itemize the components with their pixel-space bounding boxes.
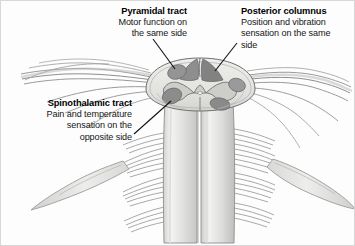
callout-spinothalamic-tract: Spinothalamic tract Pain and temperature… [7,97,132,143]
nerve-rootlet-fan-lower-right [234,129,275,227]
callout-desc-posterior-line2: sensation on the same [241,28,353,39]
spinal-cord-figure: Pyramidal tract Motor function on the sa… [0,0,355,246]
callout-posterior-columnus: Posterior columnus Position and vibratio… [241,5,353,51]
spinal-cord-cross-section [146,58,255,112]
callout-title-pyramidal: Pyramidal tract [61,5,187,17]
callout-title-spinothalamic: Spinothalamic tract [7,97,132,109]
nerve-root-trunk-right [267,159,355,209]
callout-pyramidal-tract: Pyramidal tract Motor function on the sa… [61,5,187,40]
callout-desc-pyramidal-line2: the same side [61,28,187,39]
descending-cord-columns [163,101,234,243]
callout-title-posterior: Posterior columnus [241,5,353,17]
callout-desc-posterior-line3: side [241,40,353,51]
central-canal [198,91,202,94]
callout-desc-posterior-line1: Position and vibration [241,17,353,28]
callout-desc-spinothalamic-line2: sensation on the [7,120,132,131]
callout-desc-spinothalamic-line3: opposite side [7,132,132,143]
callout-desc-pyramidal-line1: Motor function on [61,17,187,28]
callout-desc-spinothalamic-line1: Pain and temperature [7,109,132,120]
nerve-root-trunk-left [31,161,129,210]
nerve-rootlet-fan-lower-left [123,133,164,232]
